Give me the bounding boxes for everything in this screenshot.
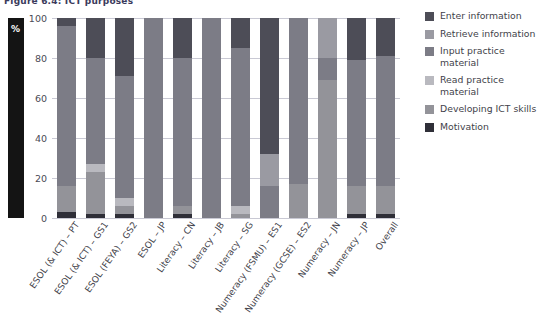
bar-segment: [144, 18, 163, 218]
bar-segment: [318, 80, 337, 218]
bar-segment: [173, 214, 192, 218]
legend-item[interactable]: Motivation: [425, 121, 540, 133]
x-axis-label: ESOL (FEYA) – GS2: [83, 220, 139, 294]
legend-item[interactable]: Read practice material: [425, 74, 540, 97]
bar-segment: [231, 48, 250, 206]
bar-segment: [86, 18, 105, 58]
bar-segment: [86, 164, 105, 172]
legend-label: Developing ICT skills: [440, 103, 536, 115]
legend-label: Read practice material: [440, 74, 540, 97]
bar-segment: [115, 214, 134, 218]
bar-group: [52, 18, 400, 218]
stacked-bar[interactable]: [347, 18, 366, 218]
y-tick-label-40: 40: [35, 133, 47, 144]
percent-axis-spine: %: [8, 18, 24, 218]
stacked-bar[interactable]: [202, 18, 221, 218]
bar-segment: [376, 56, 395, 186]
bar-segment: [376, 186, 395, 214]
bar-segment: [347, 186, 366, 214]
bar-segment: [173, 58, 192, 206]
legend-label: Motivation: [440, 121, 489, 133]
stacked-bar[interactable]: [318, 18, 337, 218]
legend-swatch: [425, 76, 434, 85]
figure-ict-purposes: Figure 6.4: ICT purposes % 020406080100 …: [0, 0, 542, 333]
bar-slot: [226, 18, 255, 218]
x-axis-label: Overall: [373, 220, 400, 252]
bar-slot: [284, 18, 313, 218]
bar-segment: [231, 18, 250, 48]
y-tick-label-100: 100: [29, 13, 47, 24]
figure-title: Figure 6.4: ICT purposes: [4, 0, 133, 6]
stacked-bar[interactable]: [289, 18, 308, 218]
stacked-bar[interactable]: [144, 18, 163, 218]
bar-segment: [57, 186, 76, 212]
bar-slot: [110, 18, 139, 218]
legend-item[interactable]: Retrieve information: [425, 28, 540, 40]
legend-item[interactable]: Enter information: [425, 10, 540, 22]
bar-slot: [81, 18, 110, 218]
bar-slot: [168, 18, 197, 218]
bar-slot: [342, 18, 371, 218]
bar-segment: [115, 198, 134, 206]
bar-slot: [139, 18, 168, 218]
bar-segment: [260, 186, 279, 218]
percent-symbol: %: [11, 24, 20, 34]
bar-segment: [86, 214, 105, 218]
bar-segment: [376, 214, 395, 218]
legend-swatch: [425, 105, 434, 114]
x-axis-label: ESOL – JP: [136, 220, 168, 260]
bar-segment: [86, 58, 105, 164]
bar-segment: [289, 184, 308, 218]
bar-segment: [57, 18, 76, 26]
legend-item[interactable]: Developing ICT skills: [425, 103, 540, 115]
bar-slot: [52, 18, 81, 218]
y-tick-label-0: 0: [41, 213, 47, 224]
stacked-bar[interactable]: [260, 18, 279, 218]
bar-segment: [260, 18, 279, 154]
stacked-bar[interactable]: [86, 18, 105, 218]
bar-segment: [57, 26, 76, 186]
legend-swatch: [425, 47, 434, 56]
legend-label: Retrieve information: [440, 28, 535, 40]
bar-segment: [318, 18, 337, 58]
y-tick-label-20: 20: [35, 173, 47, 184]
bar-segment: [231, 214, 250, 218]
bar-segment: [202, 18, 221, 218]
stacked-bar[interactable]: [231, 18, 250, 218]
bar-segment: [115, 18, 134, 76]
bar-segment: [231, 206, 250, 214]
x-axis-label: ESOL (& ICT) – GS1: [52, 220, 110, 296]
bar-segment: [260, 154, 279, 186]
bar-slot: [255, 18, 284, 218]
legend-swatch: [425, 123, 434, 132]
bar-segment: [347, 214, 366, 218]
bar-segment: [173, 206, 192, 214]
legend: Enter informationRetrieve informationInp…: [425, 10, 540, 138]
y-tick-label-80: 80: [35, 53, 47, 64]
x-axis-labels: ESOL (& ICT) – PTESOL (& ICT) – GS1ESOL …: [52, 220, 400, 333]
stacked-bar[interactable]: [115, 18, 134, 218]
stacked-bar-overall[interactable]: [376, 18, 395, 218]
bar-slot: [197, 18, 226, 218]
bar-segment: [57, 212, 76, 218]
stacked-bar[interactable]: [57, 18, 76, 218]
bar-segment: [376, 18, 395, 56]
bar-segment: [86, 172, 105, 214]
bar-slot-overall: [371, 18, 400, 218]
legend-item[interactable]: Input practice material: [425, 45, 540, 68]
bar-slot: [313, 18, 342, 218]
bar-segment: [347, 18, 366, 60]
legend-swatch: [425, 30, 434, 39]
legend-label: Input practice material: [440, 45, 540, 68]
bar-segment: [347, 60, 366, 186]
x-axis-label: ESOL (& ICT) – PT: [28, 220, 81, 290]
bar-segment: [289, 18, 308, 184]
legend-swatch: [425, 12, 434, 21]
bar-segment: [115, 206, 134, 214]
stacked-bar[interactable]: [173, 18, 192, 218]
plot-area: 020406080100: [52, 18, 400, 218]
legend-label: Enter information: [440, 10, 522, 22]
bar-segment: [173, 18, 192, 58]
gridline-0: 0: [52, 218, 400, 219]
bar-segment: [318, 58, 337, 80]
